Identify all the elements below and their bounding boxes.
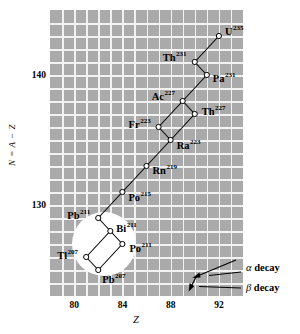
nuclide-label-Bi211: Bi211 <box>116 222 137 234</box>
nuclide-mass-number: 215 <box>141 190 152 198</box>
decay-transition-alpha <box>86 231 110 257</box>
nuclide-label-Pb211: Pb211 <box>67 209 90 221</box>
nuclide-mass-number: 219 <box>166 163 177 171</box>
nuclide-mass-number: 231 <box>176 50 187 58</box>
y-tick-label: 130 <box>20 200 46 210</box>
nuclide-element-symbol: Pb <box>102 274 114 285</box>
nuclide-element-symbol: Pa <box>213 73 225 84</box>
nuclide-label-U235: U235 <box>225 25 244 37</box>
nuclide-element-symbol: Tl <box>57 250 67 261</box>
nuclide-mass-number: 207 <box>115 272 126 280</box>
nuclide-label-Ra223: Ra223 <box>177 139 201 151</box>
nuclide-mass-number: 227 <box>215 104 226 112</box>
nuclide-label-Po215: Po215 <box>128 191 151 203</box>
alpha-decay-word: decay <box>252 262 280 273</box>
nuclide-marker-Rn219[interactable] <box>144 163 149 168</box>
nuclide-marker-U235[interactable] <box>216 33 221 38</box>
nuclide-label-Rn219: Rn219 <box>153 164 177 176</box>
decay-transition-alpha <box>98 192 122 218</box>
decay-transition-alpha <box>159 101 183 127</box>
nuclide-element-symbol: Th <box>163 52 176 63</box>
decay-transition-alpha <box>195 36 219 62</box>
nuclide-marker-Pa231[interactable] <box>204 72 209 77</box>
nuclide-mass-number: 211 <box>127 221 137 229</box>
nuclide-element-symbol: Ac <box>152 91 164 102</box>
x-tick-label: 80 <box>61 300 87 310</box>
nuclide-label-Po211: Po211 <box>129 242 151 254</box>
nuclide-element-symbol: Po <box>128 192 140 203</box>
nuclide-mass-number: 223 <box>190 138 201 146</box>
nuclide-element-symbol: Fr <box>129 119 140 130</box>
nuclide-marker-Fr223[interactable] <box>156 124 161 129</box>
nuclide-marker-Pb207[interactable] <box>96 267 101 272</box>
nuclide-marker-Po215[interactable] <box>120 189 125 194</box>
nuclide-element-symbol: Th <box>202 106 215 117</box>
x-tick-label: 92 <box>206 300 232 310</box>
nuclide-label-Pb207: Pb207 <box>102 273 125 285</box>
decay-transition-lines <box>86 36 219 270</box>
nuclide-element-symbol: Pb <box>67 210 79 221</box>
alpha-decay-legend: α decay <box>246 262 280 273</box>
nuclide-marker-Bi211[interactable] <box>108 228 113 233</box>
x-tick-label: 88 <box>158 300 184 310</box>
y-tick-label: 140 <box>20 70 46 80</box>
nuclide-element-symbol: Bi <box>116 223 126 234</box>
nuclide-element-symbol: Ra <box>177 140 190 151</box>
nuclide-mass-number: 227 <box>164 89 175 97</box>
decay-chain-figure: 80848892 140130 Z N = A − Z U235Th231Pa2… <box>0 0 300 334</box>
nuclide-label-Th227: Th227 <box>202 105 226 117</box>
decay-transition-alpha <box>122 166 146 192</box>
nuclide-mass-number: 211 <box>142 241 152 249</box>
beta-decay-word: decay <box>251 282 279 293</box>
nuclide-mass-number: 235 <box>233 24 244 32</box>
nuclide-label-Th231: Th231 <box>163 51 187 63</box>
nuclide-element-symbol: Rn <box>153 165 166 176</box>
nuclide-mass-number: 207 <box>68 248 79 256</box>
nuclide-marker-Po211[interactable] <box>120 241 125 246</box>
beta-decay-legend: β decay <box>246 282 280 293</box>
nuclide-label-Ac227: Ac227 <box>152 90 175 102</box>
nuclide-label-Pa231: Pa231 <box>213 72 236 84</box>
nuclide-element-symbol: U <box>225 26 233 37</box>
decay-transition-alpha <box>98 244 122 270</box>
nuclide-marker-Pb211[interactable] <box>96 215 101 220</box>
x-tick-label: 84 <box>109 300 135 310</box>
nuclide-marker-Th227[interactable] <box>192 111 197 116</box>
nuclide-marker-Ra223[interactable] <box>168 137 173 142</box>
nuclide-label-Tl207: Tl207 <box>57 249 78 261</box>
alpha-decay-arrow <box>193 260 242 278</box>
decay-transition-alpha <box>171 114 195 140</box>
nuclide-marker-Th231[interactable] <box>192 59 197 64</box>
x-axis-label: Z <box>133 314 139 325</box>
nuclide-label-Fr223: Fr223 <box>129 118 151 130</box>
beta-decay-arrow <box>189 277 241 292</box>
nuclide-mass-number: 211 <box>80 208 90 216</box>
nuclide-marker-Ac227[interactable] <box>180 98 185 103</box>
nuclide-mass-number: 231 <box>225 71 236 79</box>
nuclide-element-symbol: Po <box>129 243 141 254</box>
decay-transition-alpha <box>183 75 207 101</box>
nuclide-marker-Tl207[interactable] <box>84 254 89 259</box>
nuclide-mass-number: 223 <box>140 117 151 125</box>
y-axis-label: N = A − Z <box>7 115 17 175</box>
